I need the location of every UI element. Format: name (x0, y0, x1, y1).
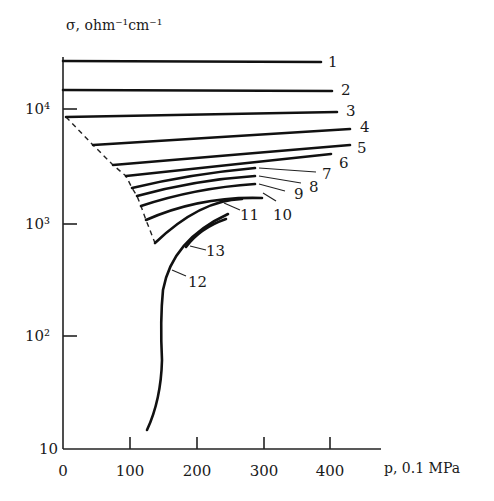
curve-label-9: 9 (294, 185, 304, 203)
curve-3 (66, 112, 337, 117)
curve-label-8: 8 (309, 178, 319, 196)
curve-6 (126, 154, 331, 176)
y-tick-label-1e2: 10² (25, 327, 50, 345)
x-tick-labels: 0 100 200 300 400 (58, 462, 344, 480)
curve-label-2: 2 (341, 81, 351, 99)
x-tick-label-0: 0 (58, 462, 68, 480)
curve-label-4: 4 (360, 118, 370, 136)
curve-2 (63, 90, 332, 91)
conductivity-pressure-chart: σ, ohm⁻¹cm⁻¹ p, 0.1 MPa 10⁴ 10³ 10² 10 0… (0, 0, 494, 501)
y-axis-title: σ, ohm⁻¹cm⁻¹ (66, 17, 162, 33)
curve-4 (93, 129, 350, 145)
curve-label-7: 7 (322, 165, 332, 183)
curve-label-3: 3 (346, 102, 356, 120)
curve-label-5: 5 (357, 139, 367, 157)
curve-label-1: 1 (328, 53, 338, 71)
x-tick-label-200: 200 (183, 462, 212, 480)
curve-label-6: 6 (339, 154, 349, 172)
x-tick-label-300: 300 (250, 462, 279, 480)
curve-label-12: 12 (188, 273, 207, 291)
x-tick-label-400: 400 (316, 462, 345, 480)
y-tick-label-10: 10 (39, 440, 58, 458)
y-tick-label-1e4: 10⁴ (25, 100, 50, 118)
curve-label-13: 13 (206, 242, 225, 260)
curve-label-11: 11 (240, 206, 259, 224)
y-tick-label-1e3: 10³ (25, 215, 50, 233)
x-axis-title: p, 0.1 MPa (384, 460, 460, 476)
boundary-dashed-line (66, 117, 155, 243)
y-tick-labels: 10⁴ 10³ 10² 10 (25, 100, 58, 458)
curve-label-10: 10 (273, 206, 292, 224)
x-tick-label-100: 100 (116, 462, 145, 480)
curve-1 (63, 61, 321, 62)
